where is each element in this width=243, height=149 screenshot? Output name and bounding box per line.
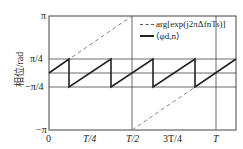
legend: arg[exp(j2πΔfnTs)] ⟨φd,n⟩ — [140, 18, 226, 42]
xtick-t2: T/2 — [126, 134, 139, 144]
ytick-mpi4: −π/4 — [25, 82, 43, 92]
y-axis-label: 相位/rad — [11, 50, 26, 90]
legend-item-solid: ⟨φd,n⟩ — [140, 30, 226, 42]
legend-item-dashed: arg[exp(j2πΔfnTs)] — [140, 18, 226, 30]
solid-line-swatch-icon — [140, 35, 154, 37]
xtick-t4: T/4 — [83, 134, 96, 144]
ytick-pi4: π/4 — [30, 54, 43, 64]
xtick-3t4: 3T/4 — [163, 134, 182, 144]
dashed-line-swatch-icon — [140, 24, 154, 25]
xtick-0: 0 — [46, 134, 51, 144]
legend-label-solid: ⟨φd,n⟩ — [156, 30, 179, 42]
ytick-pi: π — [41, 11, 46, 21]
xtick-t: T — [213, 134, 219, 144]
legend-label-dashed: arg[exp(j2πΔfnTs)] — [156, 18, 226, 30]
